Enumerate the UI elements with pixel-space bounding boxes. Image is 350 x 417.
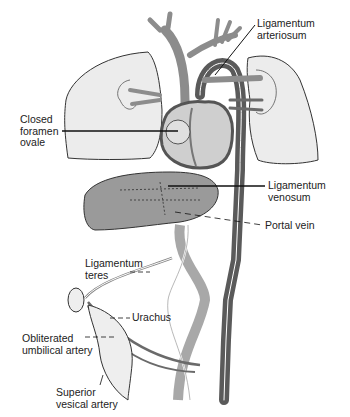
label-closed-foramen-ovale: Closed foramen ovale (20, 114, 59, 149)
label-urachus: Urachus (132, 312, 171, 324)
label-obliterated-umbilical-artery: Obliterated umbilical artery (22, 333, 93, 356)
heart (161, 102, 232, 168)
label-ligamentum-venosum: Ligamentum venosum (268, 180, 326, 203)
label-superior-vesical-artery: Superior vesical artery (56, 387, 118, 410)
label-portal-vein: Portal vein (265, 220, 315, 232)
label-ligamentum-arteriosum: Ligamentum arteriosum (257, 18, 315, 41)
left-lung (65, 52, 162, 160)
label-ligamentum-teres: Ligamentum teres (85, 258, 143, 281)
liver (84, 172, 218, 230)
umbilicus (68, 288, 84, 312)
